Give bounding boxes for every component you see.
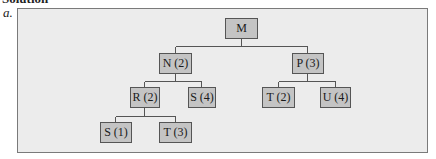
node-u4: U (4): [320, 87, 351, 108]
node-s1: S (1): [100, 122, 132, 143]
node-m: M: [225, 18, 258, 39]
node-r: R (2): [130, 87, 160, 108]
node-t3: T (3): [159, 122, 192, 143]
node-t2: T (2): [262, 87, 295, 108]
node-n: N (2): [159, 53, 192, 74]
node-p: P (3): [292, 53, 324, 74]
node-s4: S (4): [188, 87, 216, 108]
tree-connectors: [0, 0, 436, 159]
